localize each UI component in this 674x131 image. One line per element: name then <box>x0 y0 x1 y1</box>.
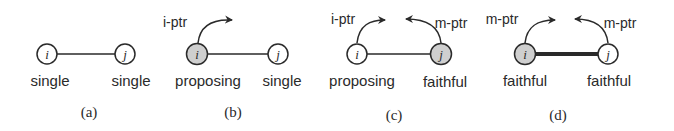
node-i: i <box>187 44 208 65</box>
state-label-j: single <box>111 72 150 89</box>
pointer-label-i: m-ptr <box>486 11 519 27</box>
node-label: i <box>195 47 199 62</box>
panel-c: i-ptr m-ptr i j proposing faithful (c) <box>329 11 468 124</box>
state-label-i: faithful <box>503 72 547 89</box>
state-label-j: faithful <box>587 72 631 89</box>
node-i: i <box>515 44 536 65</box>
pointer-label: i-ptr <box>163 14 187 30</box>
pointer-label-j: m-ptr <box>604 15 637 31</box>
node-j: j <box>598 44 618 64</box>
node-label: i <box>45 47 49 62</box>
panel-a: i j single single (a) <box>30 44 150 121</box>
i-ptr-arrow-icon <box>198 20 232 43</box>
state-label-i: single <box>30 72 69 89</box>
state-label-i: proposing <box>175 72 241 89</box>
panel-d: m-ptr m-ptr i j faithful faithful (d) <box>486 11 637 124</box>
m-ptr-arrow-icon <box>525 20 555 43</box>
node-label: i <box>523 47 527 62</box>
caption: (a) <box>81 104 98 121</box>
i-ptr-arrow-icon <box>357 20 385 43</box>
node-j: j <box>115 44 135 64</box>
caption: (b) <box>224 104 242 121</box>
diagram-canvas: i j single single (a) i-ptr i j proposin… <box>0 0 674 131</box>
node-i: i <box>37 44 57 64</box>
caption: (c) <box>386 107 403 124</box>
state-label-j: single <box>262 72 301 89</box>
node-i: i <box>347 44 367 64</box>
node-label: i <box>355 47 359 62</box>
caption: (d) <box>549 107 567 124</box>
pointer-label-i: i-ptr <box>331 11 355 27</box>
node-j: j <box>268 44 288 64</box>
state-label-j: faithful <box>423 73 467 90</box>
panel-b: i-ptr i j proposing single (b) <box>163 14 302 121</box>
node-j: j <box>431 44 452 65</box>
pointer-label-j: m-ptr <box>435 15 468 31</box>
state-label-i: proposing <box>329 72 395 89</box>
